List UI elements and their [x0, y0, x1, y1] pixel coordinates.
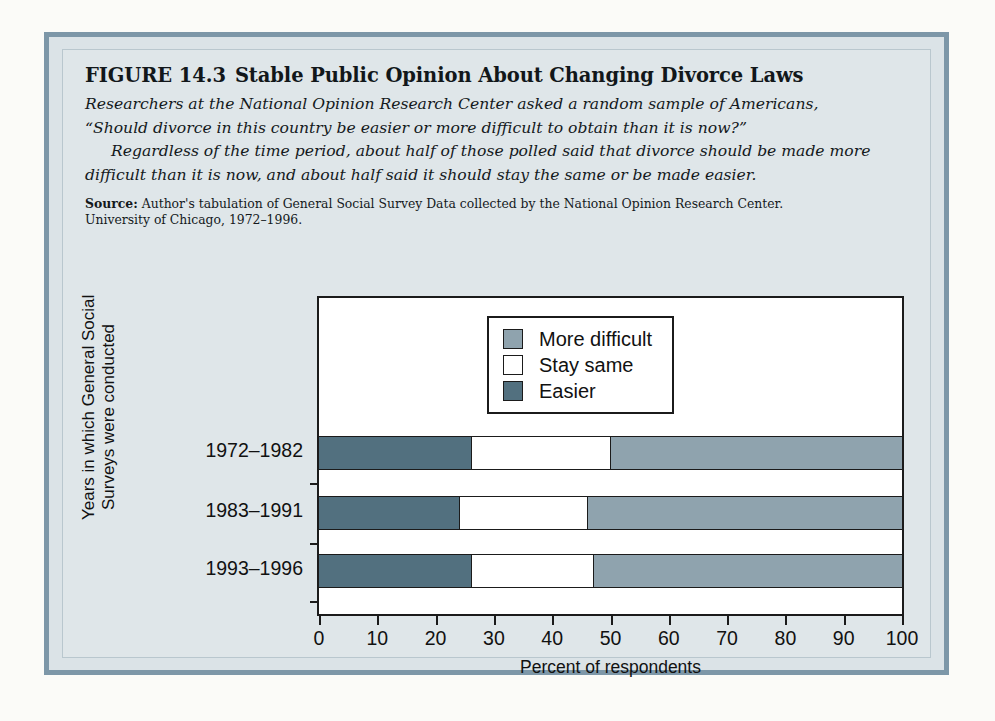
bar-row[interactable] — [319, 436, 902, 470]
legend-item[interactable]: Easier — [503, 378, 652, 404]
chart: Years in which General Social Surveys we… — [85, 296, 930, 651]
y-axis-tick-label: 1972–1982 — [123, 439, 303, 462]
legend-item-label: More difficult — [539, 328, 652, 351]
figure-source: Source: Author's tabulation of General S… — [85, 196, 910, 229]
bar-segment[interactable] — [471, 436, 611, 470]
bar-segment[interactable] — [610, 436, 902, 470]
legend-item[interactable]: More difficult — [503, 326, 652, 352]
x-axis-tick — [844, 616, 846, 625]
x-axis-tick — [552, 616, 554, 625]
legend-item-label: Easier — [539, 380, 596, 403]
legend-swatch-icon — [503, 355, 523, 375]
x-axis-tick-label: 90 — [814, 627, 874, 650]
plot-area: More difficultStay sameEasier — [317, 296, 904, 616]
figure-lead-line-3: Regardless of the time period, about hal… — [111, 142, 870, 160]
y-axis-title-line-2: Surveys were conducted — [99, 314, 119, 520]
x-axis-title: Percent of respondents — [317, 657, 904, 678]
figure-source-line-2: University of Chicago, 1972–1996. — [85, 212, 302, 227]
figure-label: FIGURE 14.3 — [85, 64, 226, 87]
chart-legend: More difficultStay sameEasier — [487, 316, 674, 414]
y-axis-tick-label: 1983–1991 — [123, 499, 303, 522]
x-axis-tick — [436, 616, 438, 625]
x-axis-tick — [494, 616, 496, 625]
figure-content: FIGURE 14.3Stable Public Opinion About C… — [85, 64, 910, 647]
x-axis-tick — [319, 616, 321, 625]
figure-lead-paragraph-1: Researchers at the National Opinion Rese… — [85, 93, 910, 188]
x-axis-tick-label: 10 — [347, 627, 407, 650]
bar-segment[interactable] — [319, 436, 471, 470]
bar-segment[interactable] — [587, 496, 902, 530]
x-axis-tick-label: 80 — [755, 627, 815, 650]
bar-segment[interactable] — [459, 496, 587, 530]
y-axis-title: Years in which General Social Surveys we… — [79, 314, 119, 520]
figure-lead-line-2: “Should divorce in this country be easie… — [85, 119, 747, 137]
x-axis-tick-label: 50 — [581, 627, 641, 650]
bar-segment[interactable] — [471, 554, 593, 588]
x-axis-tick-label: 60 — [639, 627, 699, 650]
figure-frame-outer: FIGURE 14.3Stable Public Opinion About C… — [44, 32, 949, 675]
x-axis-tick — [377, 616, 379, 625]
x-axis-tick — [902, 616, 904, 625]
figure-frame-inner: FIGURE 14.3Stable Public Opinion About C… — [62, 49, 931, 658]
bar-segment[interactable] — [319, 496, 459, 530]
legend-item-label: Stay same — [539, 354, 633, 377]
y-axis-tick-label: 1993–1996 — [123, 557, 303, 580]
x-axis-tick-label: 100 — [872, 627, 932, 650]
bar-segment[interactable] — [319, 554, 471, 588]
figure-source-line-1: Author's tabulation of General Social Su… — [142, 196, 783, 211]
figure-title: FIGURE 14.3Stable Public Opinion About C… — [85, 64, 910, 87]
figure-lead-line-1: Researchers at the National Opinion Rese… — [85, 95, 818, 113]
y-axis-tick — [310, 483, 319, 485]
bar-row[interactable] — [319, 496, 902, 530]
bar-segment[interactable] — [593, 554, 902, 588]
y-axis-tick — [310, 601, 319, 603]
y-axis-tick — [310, 543, 319, 545]
x-axis-tick — [669, 616, 671, 625]
legend-swatch-icon — [503, 329, 523, 349]
figure-source-label: Source: — [85, 196, 138, 211]
x-axis-tick-label: 40 — [522, 627, 582, 650]
x-axis-tick — [611, 616, 613, 625]
x-axis-tick-label: 20 — [406, 627, 466, 650]
bar-row[interactable] — [319, 554, 902, 588]
figure-lead-line-4: difficult than it is now, and about half… — [85, 166, 756, 184]
y-axis-title-line-1: Years in which General Social — [79, 314, 99, 520]
x-axis-tick-label: 30 — [464, 627, 524, 650]
legend-swatch-icon — [503, 381, 523, 401]
legend-item[interactable]: Stay same — [503, 352, 652, 378]
x-axis-tick — [785, 616, 787, 625]
x-axis-tick — [727, 616, 729, 625]
x-axis-tick-label: 0 — [289, 627, 349, 650]
x-axis-tick-label: 70 — [697, 627, 757, 650]
figure-page: FIGURE 14.3Stable Public Opinion About C… — [0, 0, 995, 721]
figure-title-text: Stable Public Opinion About Changing Div… — [235, 64, 804, 87]
